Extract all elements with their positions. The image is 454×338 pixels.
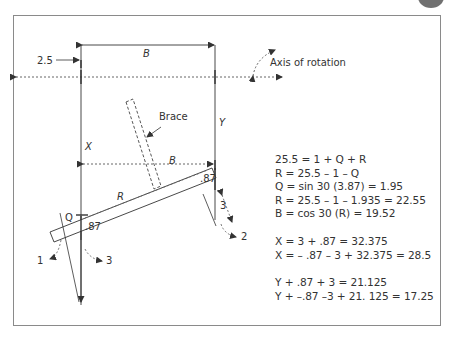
equation-line: Y + .87 + 3 = 21.125: [275, 276, 434, 290]
beam: [50, 168, 216, 242]
r-label: R: [117, 191, 124, 202]
y-label: Y: [219, 117, 226, 128]
equation-line: Y + –.87 –3 + 21. 125 = 17.25: [275, 290, 434, 304]
equation-line: 25.5 = 1 + Q + R: [275, 153, 434, 167]
equations-panel: 25.5 = 1 + Q + R R = 25.5 – 1 – Q Q = si…: [275, 153, 434, 303]
q-label: Q: [65, 212, 73, 223]
arrow-2-curve: [221, 224, 236, 237]
arrow-2-label: 2: [241, 231, 247, 242]
brace-outline: [126, 99, 161, 189]
right-3-label: 3: [220, 200, 226, 211]
equation-line: R = 25.5 – 1 – 1.935 = 22.55: [275, 194, 434, 208]
arrow-1-label: 1: [37, 255, 43, 266]
equation-line: X = – .87 – 3 + 32.375 = 28.5: [275, 249, 434, 263]
mid-b-label: B: [169, 155, 176, 166]
brace-leader: [147, 127, 161, 137]
right-087-label: .87: [200, 173, 216, 184]
equation-line: Q = sin 30 (3.87) = 1.95: [275, 180, 434, 194]
equation-line: B = cos 30 (R) = 19.52: [275, 207, 434, 221]
arrow-3-label: 3: [106, 255, 112, 266]
x-label: X: [84, 141, 93, 152]
brace-label: Brace: [159, 111, 188, 122]
equation-line: X = 3 + .87 = 32.375: [275, 235, 434, 249]
offset-label: 2.5: [37, 55, 53, 66]
right-drop-line: [203, 194, 216, 226]
arrow-3-curve: [85, 249, 102, 261]
arrow-1-curve: [50, 240, 61, 259]
axis-label: Axis of rotation: [270, 57, 346, 68]
equation-line: R = 25.5 – 1 – Q: [275, 167, 434, 181]
top-b-label: B: [143, 48, 150, 59]
left-087-label: .87: [85, 221, 101, 232]
